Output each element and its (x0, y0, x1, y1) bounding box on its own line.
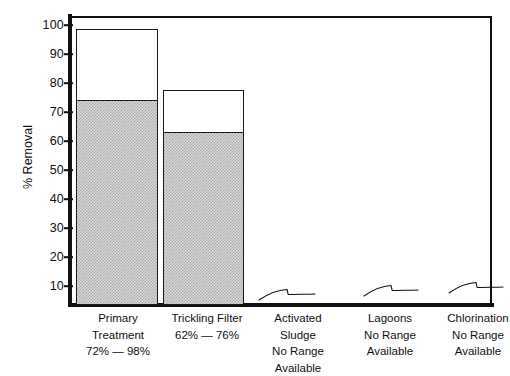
category-label-line: Lagoons (340, 310, 440, 327)
y-axis-spine (68, 14, 72, 307)
y-tick-label-80: 80 (28, 77, 64, 90)
chlorination-mark (447, 275, 505, 297)
category-label-line: Available (428, 343, 510, 360)
y-tick-mark-90 (64, 53, 73, 55)
y-tick-label-30: 30 (28, 222, 64, 235)
category-label-line: No Range (340, 327, 440, 344)
category-label-line: 62% — 76% (157, 327, 257, 344)
category-label-line: Trickling Filter (157, 310, 257, 327)
y-tick-mark-70 (64, 111, 73, 113)
y-tick-mark-50 (64, 169, 73, 171)
y-tick-mark-30 (64, 227, 73, 229)
category-label-trickling-filter: Trickling Filter62% — 76% (157, 310, 257, 343)
y-tick-mark-100 (64, 24, 73, 26)
y-tick-label-100: 100 (28, 19, 64, 32)
y-tick-mark-40 (64, 198, 73, 200)
bar-trickling-filter (163, 90, 244, 305)
activated-sludge-mark (257, 282, 317, 304)
category-label-lagoons: LagoonsNo RangeAvailable (340, 310, 440, 360)
y-tick-mark-60 (64, 140, 73, 142)
category-label-line: Primary (68, 310, 168, 327)
bar-primary-treatment (76, 29, 158, 305)
category-label-line: Treatment (68, 327, 168, 344)
y-tick-mark-20 (64, 256, 73, 258)
category-label-primary-treatment: PrimaryTreatment72% — 98% (68, 310, 168, 360)
bar-fill-trickling-filter (164, 132, 243, 304)
category-label-line: Activated (248, 310, 348, 327)
category-label-line: Chlorination (428, 310, 510, 327)
bar-chart: % Removal 100908070605040302010 PrimaryT… (0, 0, 510, 376)
y-tick-label-50: 50 (28, 164, 64, 177)
category-label-line: Sludge (248, 327, 348, 344)
bar-fill-primary-treatment (77, 100, 157, 304)
category-label-line: No Range (248, 343, 348, 360)
y-tick-mark-80 (64, 82, 73, 84)
category-label-line: Available (248, 360, 348, 376)
category-label-chlorination: ChlorinationNo RangeAvailable (428, 310, 510, 360)
lagoons-mark (362, 278, 420, 300)
category-label-line: Available (340, 343, 440, 360)
category-label-line: 72% — 98% (68, 343, 168, 360)
y-tick-label-90: 90 (28, 48, 64, 61)
y-tick-mark-10 (64, 285, 73, 287)
y-tick-label-10: 10 (28, 280, 64, 293)
y-tick-label-40: 40 (28, 193, 64, 206)
category-label-line: No Range (428, 327, 510, 344)
y-tick-label-70: 70 (28, 106, 64, 119)
y-tick-label-20: 20 (28, 251, 64, 264)
category-label-activated-sludge: ActivatedSludgeNo RangeAvailable (248, 310, 348, 376)
y-tick-label-60: 60 (28, 135, 64, 148)
